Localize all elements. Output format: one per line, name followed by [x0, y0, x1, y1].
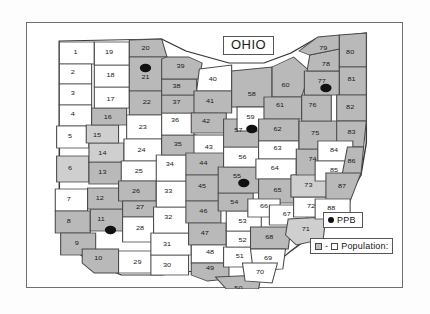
- ppb-marker-county-55[interactable]: [238, 179, 249, 187]
- page-title: OHIO: [231, 37, 266, 52]
- county-label-17: 17: [106, 96, 115, 102]
- county-label-85: 85: [330, 167, 339, 173]
- county-label-84: 84: [330, 147, 339, 153]
- county-label-79: 79: [319, 45, 328, 51]
- county-label-63: 63: [273, 145, 282, 151]
- county-label-4: 4: [71, 111, 76, 117]
- county-label-48: 48: [206, 249, 215, 255]
- legend-population: - Population:: [310, 238, 393, 254]
- county-label-72: 72: [307, 203, 316, 209]
- county-label-26: 26: [132, 188, 141, 194]
- county-label-20: 20: [141, 45, 150, 51]
- county-5[interactable]: [57, 126, 89, 148]
- county-label-67: 67: [283, 211, 292, 217]
- legend-ppb: PPB: [323, 212, 363, 228]
- county-label-66: 66: [260, 203, 269, 209]
- county-label-13: 13: [98, 169, 107, 175]
- county-label-87: 87: [338, 183, 347, 189]
- county-label-35: 35: [174, 141, 183, 147]
- county-label-15: 15: [93, 132, 102, 138]
- county-7[interactable]: [55, 189, 87, 211]
- county-label-70: 70: [256, 269, 265, 275]
- county-label-18: 18: [106, 72, 115, 78]
- ppb-marker-county-59[interactable]: [246, 125, 257, 133]
- county-label-47: 47: [201, 230, 210, 236]
- county-label-30: 30: [163, 262, 172, 268]
- county-label-9: 9: [75, 240, 80, 246]
- county-label-65: 65: [273, 187, 282, 193]
- county-label-33: 33: [164, 188, 173, 194]
- county-label-43: 43: [205, 144, 214, 150]
- figure-page: 1234567891011121314151617181920212223242…: [0, 0, 430, 314]
- county-label-32: 32: [164, 214, 173, 220]
- county-6[interactable]: [57, 156, 89, 182]
- legend-dash: -: [325, 241, 328, 251]
- county-label-50: 50: [234, 285, 243, 289]
- population-low-swatch-icon: [331, 243, 338, 250]
- county-label-58: 58: [248, 91, 257, 97]
- legend-ppb-label: PPB: [337, 215, 356, 225]
- county-label-44: 44: [199, 160, 208, 166]
- county-label-73: 73: [304, 182, 313, 188]
- ppb-dot-icon: [328, 217, 334, 223]
- county-label-11: 11: [97, 216, 105, 222]
- county-label-83: 83: [347, 129, 356, 135]
- county-label-14: 14: [98, 150, 107, 156]
- county-label-55: 55: [233, 173, 242, 179]
- county-label-23: 23: [139, 124, 148, 130]
- county-label-53: 53: [238, 218, 247, 224]
- county-label-38: 38: [172, 83, 181, 89]
- county-label-40: 40: [209, 76, 218, 82]
- county-label-64: 64: [271, 165, 280, 171]
- county-label-24: 24: [137, 147, 146, 153]
- county-label-2: 2: [71, 69, 76, 75]
- county-label-19: 19: [105, 49, 114, 55]
- ppb-marker-county-77[interactable]: [320, 84, 331, 92]
- county-label-29: 29: [133, 259, 142, 265]
- county-label-8: 8: [67, 218, 72, 224]
- county-15[interactable]: [86, 125, 118, 143]
- county-label-6: 6: [68, 165, 73, 171]
- county-label-74: 74: [308, 156, 317, 162]
- county-label-88: 88: [327, 205, 336, 211]
- county-2[interactable]: [59, 64, 91, 84]
- county-8[interactable]: [55, 211, 90, 233]
- county-3[interactable]: [59, 84, 91, 105]
- county-label-5: 5: [68, 133, 73, 139]
- county-36[interactable]: [162, 113, 194, 135]
- county-12[interactable]: [88, 188, 123, 209]
- county-label-46: 46: [199, 208, 208, 214]
- county-label-80: 80: [346, 49, 355, 55]
- map-title-box: OHIO: [223, 36, 274, 55]
- ohio-map: 1234567891011121314151617181920212223242…: [27, 23, 404, 289]
- county-label-25: 25: [135, 168, 144, 174]
- county-4[interactable]: [59, 105, 91, 126]
- county-label-49: 49: [206, 265, 215, 271]
- county-label-10: 10: [94, 255, 103, 261]
- county-label-27: 27: [136, 204, 145, 210]
- county-label-16: 16: [104, 114, 113, 120]
- county-label-78: 78: [322, 61, 331, 67]
- legend-population-label: Population:: [341, 241, 388, 251]
- county-label-59: 59: [246, 114, 255, 120]
- county-label-31: 31: [163, 241, 172, 247]
- ppb-marker-county-11[interactable]: [105, 226, 116, 234]
- county-label-61: 61: [276, 102, 285, 108]
- county-55[interactable]: [218, 167, 258, 193]
- county-label-34: 34: [166, 161, 175, 167]
- county-label-76: 76: [308, 102, 317, 108]
- county-label-54: 54: [230, 199, 239, 205]
- county-label-52: 52: [238, 237, 247, 243]
- county-label-1: 1: [73, 49, 78, 55]
- county-label-28: 28: [136, 225, 145, 231]
- county-label-41: 41: [206, 98, 215, 104]
- county-label-75: 75: [311, 130, 320, 136]
- county-label-81: 81: [347, 76, 356, 82]
- county-label-21: 21: [141, 74, 150, 80]
- county-label-82: 82: [346, 104, 355, 110]
- county-label-7: 7: [67, 196, 72, 202]
- county-label-42: 42: [202, 118, 211, 124]
- ppb-marker-county-21[interactable]: [140, 64, 151, 72]
- county-label-3: 3: [71, 90, 76, 96]
- county-label-51: 51: [236, 253, 245, 259]
